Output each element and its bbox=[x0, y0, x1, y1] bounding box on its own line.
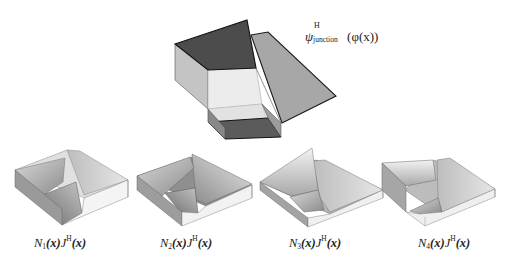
panel-n2-plot bbox=[137, 154, 252, 226]
caption-enrich-arg: (x) bbox=[72, 236, 87, 250]
junction-function-label: ψHjunction(φ(x)) bbox=[305, 29, 378, 45]
panel-n4-plot bbox=[382, 158, 495, 226]
panel-n3-caption: N3(x)JH(x) bbox=[289, 234, 341, 251]
label-subscript: junction bbox=[313, 35, 338, 44]
panel-n1-plot bbox=[15, 150, 128, 225]
label-script-stack: Hjunction bbox=[313, 29, 347, 43]
caption-arg: (x) bbox=[430, 236, 445, 250]
caption-enrich-arg: (x) bbox=[456, 236, 471, 250]
figure: ψHjunction(φ(x)) N1(x)JH(x) N2(x)JH(x) N… bbox=[0, 0, 510, 264]
caption-arg: (x) bbox=[46, 236, 61, 250]
caption-enrich-arg: (x) bbox=[327, 236, 342, 250]
label-argument: (φ(x)) bbox=[347, 29, 378, 44]
psi-symbol: ψ bbox=[305, 29, 313, 44]
panel-n1-caption: N1(x)JH(x) bbox=[34, 234, 86, 251]
caption-enrich-arg: (x) bbox=[198, 236, 213, 250]
caption-arg: (x) bbox=[172, 236, 187, 250]
panel-n4-caption: N4(x)JH(x) bbox=[418, 234, 470, 251]
panel-n3-plot bbox=[260, 148, 383, 227]
caption-arg: (x) bbox=[301, 236, 316, 250]
panel-n2-caption: N2(x)JH(x) bbox=[160, 234, 212, 251]
label-superscript: H bbox=[314, 21, 320, 30]
figure-artwork bbox=[0, 0, 510, 264]
